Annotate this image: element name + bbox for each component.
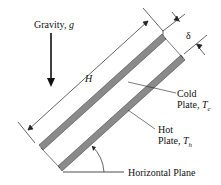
hot-plate-label: Hot Plate, Th (158, 124, 192, 151)
gravity-symbol: g (69, 19, 74, 30)
cold-plate-label: Cold Plate, Tc (177, 88, 211, 115)
hot-plate-text: Plate, (158, 135, 183, 146)
height-label: H (85, 73, 92, 84)
gravity-label: Gravity, g (34, 19, 74, 30)
hot-plate-line2: Plate, Th (158, 135, 192, 151)
horizontal-plane-label: Horizontal Plane (128, 167, 195, 178)
gap-dimension (163, 12, 207, 55)
hot-plate-leader (128, 110, 155, 129)
gravity-arrow (47, 33, 55, 87)
gravity-text: Gravity, (34, 19, 69, 30)
cold-plate-text: Plate, (177, 99, 202, 110)
gap-label: δ (186, 30, 191, 41)
hot-plate-line1: Hot (158, 124, 192, 135)
cold-plate-line2: Plate, Tc (177, 99, 211, 115)
hot-plate-subscript: h (189, 141, 193, 149)
cold-plate-subscript: c (208, 105, 211, 113)
cold-plate-line1: Cold (177, 88, 211, 99)
